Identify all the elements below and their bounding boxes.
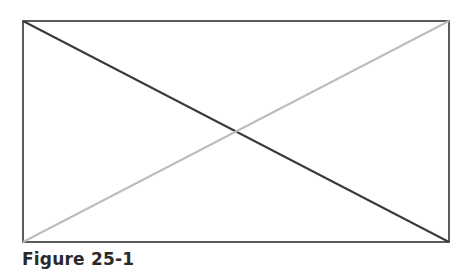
placeholder-figure <box>0 0 471 276</box>
figure-caption: Figure 25-1 <box>22 249 134 269</box>
